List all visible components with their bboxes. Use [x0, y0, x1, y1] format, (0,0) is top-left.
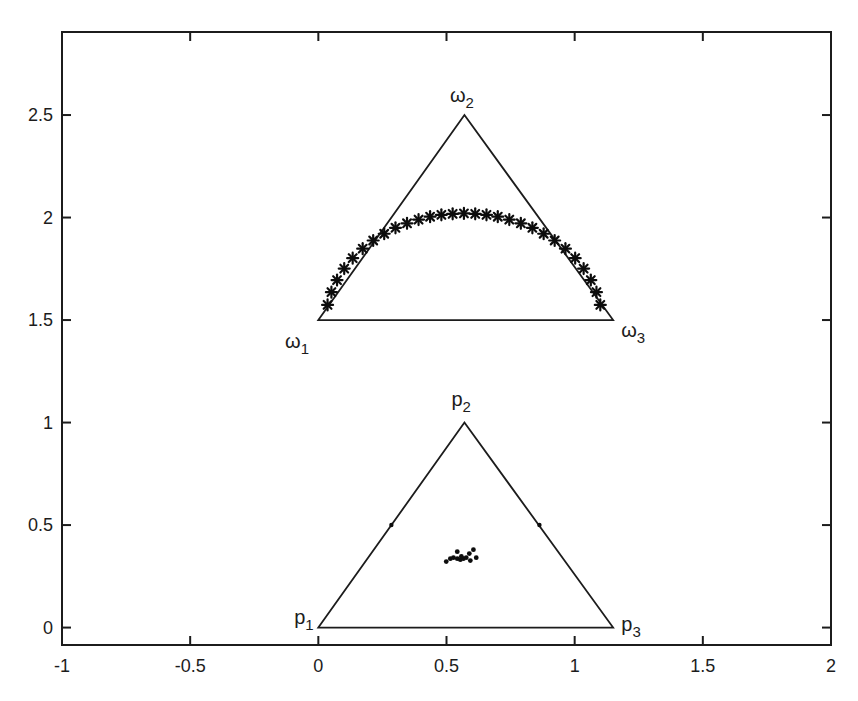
x-tick-label: 1 [570, 656, 580, 676]
y-tick-label: 0 [43, 618, 53, 638]
omega-simplex-triangle [318, 115, 613, 320]
asterisk-marker [425, 211, 436, 222]
p-cluster-dot [474, 555, 479, 560]
y-tick-label: 2.5 [28, 105, 53, 125]
asterisk-marker [578, 263, 589, 274]
asterisk-marker [379, 228, 390, 239]
p-cluster-dot [468, 558, 473, 563]
vertex-label-p-3: p3 [621, 613, 640, 640]
vertex-label-p-2: p2 [451, 388, 470, 415]
p-edge-points-dot [389, 523, 393, 527]
x-tick-label: 0.5 [434, 656, 459, 676]
simplex-chart: -1-0.500.511.5200.511.522.5ω1ω2ω3p1p2p3 [0, 0, 858, 701]
y-tick-label: 1.5 [28, 310, 53, 330]
y-tick-label: 2 [43, 208, 53, 228]
asterisk-marker [436, 209, 447, 220]
vertex-label-omega-1: ω1 [285, 330, 309, 357]
asterisk-marker [322, 299, 333, 310]
asterisk-marker [538, 228, 549, 239]
x-tick-label: 1.5 [690, 656, 715, 676]
asterisk-marker [560, 243, 571, 254]
asterisk-marker [470, 208, 481, 219]
asterisk-marker [549, 235, 560, 246]
asterisk-marker [595, 299, 606, 310]
asterisk-marker [339, 263, 350, 274]
p-edge-points-dot [537, 523, 541, 527]
asterisk-marker [347, 253, 358, 264]
p-cluster-dot [464, 555, 469, 560]
asterisk-marker [585, 275, 596, 286]
asterisk-marker [504, 214, 515, 225]
asterisk-marker [332, 275, 343, 286]
x-tick-label: -0.5 [175, 656, 206, 676]
asterisk-marker [527, 222, 538, 233]
asterisk-marker [458, 208, 469, 219]
asterisk-marker [515, 218, 526, 229]
asterisk-marker [390, 222, 401, 233]
x-tick-label: 0 [313, 656, 323, 676]
y-tick-label: 0.5 [28, 515, 53, 535]
p-simplex-triangle [318, 423, 613, 628]
x-tick-label: -1 [54, 656, 70, 676]
vertex-label-p-1: p1 [294, 606, 313, 633]
asterisk-marker [368, 235, 379, 246]
x-tick-label: 2 [826, 656, 836, 676]
asterisk-marker [492, 211, 503, 222]
asterisk-marker [357, 243, 368, 254]
asterisk-marker [326, 287, 337, 298]
asterisk-marker [402, 218, 413, 229]
vertex-label-omega-2: ω2 [450, 84, 474, 111]
p-cluster-dot [471, 547, 476, 552]
asterisk-marker [413, 214, 424, 225]
asterisk-marker [481, 209, 492, 220]
p-cluster-dot [459, 554, 464, 559]
asterisk-marker [591, 287, 602, 298]
p-cluster-dot [467, 551, 472, 556]
asterisk-marker [447, 208, 458, 219]
figure-area: -1-0.500.511.5200.511.522.5ω1ω2ω3p1p2p3 [0, 0, 858, 701]
y-tick-label: 1 [43, 413, 53, 433]
vertex-label-omega-3: ω3 [621, 319, 645, 346]
axis-box [62, 32, 831, 645]
p-cluster-dot [444, 559, 449, 564]
p-cluster-dot [455, 549, 460, 554]
asterisk-marker [570, 253, 581, 264]
